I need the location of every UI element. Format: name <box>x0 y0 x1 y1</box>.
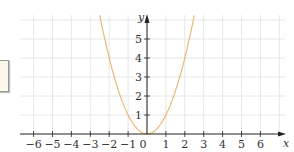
x-tick-label: 5 <box>238 138 245 151</box>
x-tick-label: −4 <box>63 138 79 151</box>
x-tick-label: −6 <box>25 138 41 151</box>
x-tick-label: −3 <box>82 138 98 151</box>
y-tick-label: 2 <box>135 90 142 103</box>
x-tick-label: 2 <box>181 138 188 151</box>
x-tick-label: 1 <box>162 138 169 151</box>
y-tick-label: 1 <box>135 109 142 122</box>
x-tick-label: −2 <box>101 138 117 151</box>
x-tick-label: 0 <box>140 138 147 151</box>
y-tick-label: 5 <box>135 33 142 46</box>
x-tick-label: −1 <box>120 138 136 151</box>
y-axis-label: y <box>137 11 145 24</box>
x-tick-label: 3 <box>200 138 207 151</box>
x-tick-label: −5 <box>44 138 60 151</box>
y-axis-arrow-icon <box>145 14 150 23</box>
x-axis-label: x <box>283 137 290 150</box>
y-tick-label: 4 <box>135 52 142 65</box>
x-axis-arrow-icon <box>278 132 286 137</box>
y-tick-label: 3 <box>135 71 142 84</box>
x-tick-label: 6 <box>257 138 264 151</box>
x-tick-label: 4 <box>219 138 226 151</box>
chart-plot: −6−5−4−3−2−1012345612345xy <box>0 0 294 152</box>
